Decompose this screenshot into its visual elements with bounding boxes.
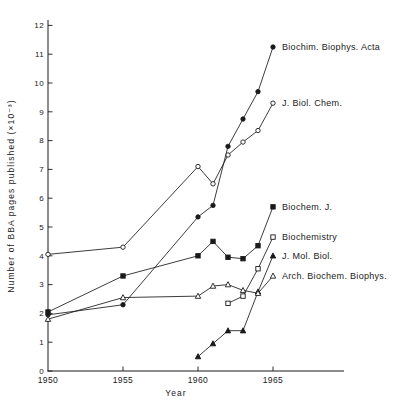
y-axis-title: Number of BBA pages published (×10⁻³) xyxy=(6,99,16,292)
y-axis-tick-label: 10 xyxy=(34,79,44,88)
filled-circle-marker xyxy=(121,303,125,307)
filled-square-marker xyxy=(121,274,125,278)
filled-circle-marker xyxy=(196,215,200,219)
filled-square-marker xyxy=(226,255,230,259)
filled-square-marker xyxy=(241,256,245,260)
y-axis-tick-label: 5 xyxy=(39,223,44,232)
open-square-marker xyxy=(226,301,230,305)
y-axis-tick-label: 12 xyxy=(34,21,44,30)
series-label-arch-biochem-biophys: Arch. Biochem. Biophys. xyxy=(282,271,387,281)
series-label-j-biol-chem: J. Biol. Chem. xyxy=(282,98,342,108)
x-axis-tick-label: 1955 xyxy=(113,375,134,385)
series-line xyxy=(228,237,273,303)
open-square-marker xyxy=(271,235,275,239)
y-axis-tick-label: 3 xyxy=(39,280,44,289)
series-line xyxy=(198,256,273,357)
open-circle-marker xyxy=(271,101,275,105)
x-axis-tick-label: 1950 xyxy=(38,375,59,385)
series-line xyxy=(48,47,273,315)
y-axis-tick-label: 8 xyxy=(39,136,44,145)
open-triangle-marker xyxy=(225,282,230,287)
open-circle-marker xyxy=(211,182,215,186)
filled-circle-marker xyxy=(226,144,230,148)
x-axis-tick-label: 1965 xyxy=(263,375,284,385)
y-axis-tick-label: 1 xyxy=(39,338,44,347)
journal-pages-growth-chart: 01234567891011121950195519601965YearNumb… xyxy=(0,0,398,416)
y-axis-tick-label: 7 xyxy=(39,165,44,174)
filled-circle-marker xyxy=(211,203,215,207)
series-biochemistry: Biochemistry xyxy=(226,232,338,305)
open-circle-marker xyxy=(46,252,50,256)
filled-circle-marker xyxy=(241,117,245,121)
series-label-j-mol-biol: J. Mol. Biol. xyxy=(282,251,332,261)
open-circle-marker xyxy=(226,153,230,157)
x-axis-title: Year xyxy=(165,388,187,398)
series-j-mol-biol: J. Mol. Biol. xyxy=(195,251,332,359)
y-axis-tick-label: 2 xyxy=(39,309,44,318)
series-label-biochemistry: Biochemistry xyxy=(282,232,337,242)
open-circle-marker xyxy=(256,128,260,132)
filled-square-marker xyxy=(196,254,200,258)
open-circle-marker xyxy=(121,245,125,249)
filled-square-marker xyxy=(211,239,215,243)
series-label-biochem-j: Biochem. J. xyxy=(282,202,332,212)
open-circle-marker xyxy=(196,164,200,168)
open-square-marker xyxy=(256,267,260,271)
chart-canvas: 01234567891011121950195519601965YearNumb… xyxy=(0,0,398,416)
filled-square-marker xyxy=(46,310,50,314)
filled-triangle-marker xyxy=(270,253,275,258)
filled-circle-marker xyxy=(271,45,275,49)
open-square-marker xyxy=(241,294,245,298)
filled-square-marker xyxy=(256,244,260,248)
y-axis-tick-label: 6 xyxy=(39,194,44,203)
filled-circle-marker xyxy=(256,89,260,93)
y-axis-tick-label: 11 xyxy=(35,50,44,59)
series-line xyxy=(48,207,273,312)
open-triangle-marker xyxy=(270,273,275,278)
open-circle-marker xyxy=(241,140,245,144)
y-axis-tick-label: 9 xyxy=(39,108,44,117)
y-axis-tick-label: 4 xyxy=(39,252,44,261)
series-arch-biochem-biophys: Arch. Biochem. Biophys. xyxy=(45,271,387,321)
x-axis-tick-label: 1960 xyxy=(188,375,209,385)
series-label-biochim-biophys-acta: Biochim. Biophys. Acta xyxy=(282,42,380,52)
filled-square-marker xyxy=(271,205,275,209)
